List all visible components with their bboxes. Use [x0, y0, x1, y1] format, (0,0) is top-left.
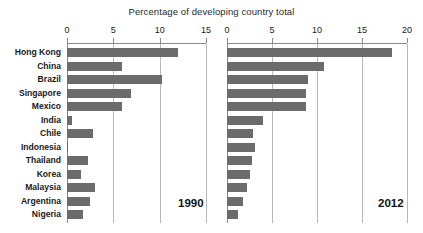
category-label: Hong Kong — [15, 48, 61, 57]
panel-1990: 051015 — [67, 27, 206, 223]
bar — [227, 210, 238, 219]
bar — [67, 48, 178, 57]
bar — [227, 102, 306, 111]
bar-row — [67, 141, 206, 155]
bar-row — [67, 73, 206, 87]
category-label: Korea — [37, 170, 61, 179]
category-row: Malaysia — [0, 181, 64, 195]
x-tick-label: 5 — [111, 25, 116, 35]
bar-row — [67, 168, 206, 182]
bar-row — [67, 87, 206, 101]
bar — [227, 129, 253, 138]
category-label: India — [41, 116, 61, 125]
x-tick-label: 10 — [155, 25, 165, 35]
bar — [227, 183, 247, 192]
bar-row — [67, 60, 206, 74]
category-label: Singapore — [19, 89, 61, 98]
panel-year-label-1990: 1990 — [178, 197, 204, 209]
bar — [227, 75, 308, 84]
bar — [227, 116, 263, 125]
bar-row — [67, 127, 206, 141]
bar — [227, 143, 255, 152]
bar-row — [67, 208, 206, 222]
category-label: Chile — [40, 129, 61, 138]
bar — [227, 156, 252, 165]
category-label: Nigeria — [32, 210, 61, 219]
bar-row — [227, 46, 407, 60]
category-label-column: Hong KongChinaBrazilSingaporeMexicoIndia… — [0, 46, 64, 223]
x-tick-label: 0 — [64, 25, 69, 35]
category-row: China — [0, 60, 64, 74]
bar-row — [227, 208, 407, 222]
category-label: Argentina — [21, 197, 61, 206]
bar-row — [67, 114, 206, 128]
bar — [67, 62, 122, 71]
category-row: Brazil — [0, 73, 64, 87]
bar — [227, 89, 306, 98]
chart-figure: Percentage of developing country total H… — [0, 0, 423, 233]
bar-row — [227, 60, 407, 74]
category-label: Indonesia — [21, 143, 61, 152]
bar-row — [227, 141, 407, 155]
category-row: Nigeria — [0, 208, 64, 222]
category-label: Brazil — [38, 75, 61, 84]
x-tick-label: 15 — [357, 25, 367, 35]
bar — [67, 197, 90, 206]
x-axis-ticks-2012: 05101520 — [227, 27, 407, 39]
bar — [67, 89, 131, 98]
panel-year-label-2012: 2012 — [378, 197, 404, 209]
bar — [67, 156, 88, 165]
bar-row — [227, 127, 407, 141]
bar — [227, 62, 324, 71]
category-row: Korea — [0, 168, 64, 182]
bar — [67, 129, 93, 138]
bar — [67, 183, 95, 192]
category-label: China — [37, 62, 61, 71]
bar-row — [227, 100, 407, 114]
bar-row — [227, 168, 407, 182]
bar — [227, 48, 392, 57]
bar-row — [227, 87, 407, 101]
bar — [67, 102, 122, 111]
x-axis-ticks-1990: 051015 — [67, 27, 206, 39]
bar-row — [227, 154, 407, 168]
category-row: Chile — [0, 127, 64, 141]
bar — [67, 210, 83, 219]
x-tick-mark — [407, 38, 408, 43]
category-row: Singapore — [0, 87, 64, 101]
category-row: Argentina — [0, 195, 64, 209]
gridline — [407, 44, 408, 223]
bar-row — [67, 181, 206, 195]
category-row: Mexico — [0, 100, 64, 114]
x-tick-label: 5 — [269, 25, 274, 35]
chart-title: Percentage of developing country total — [0, 6, 423, 17]
bar — [67, 170, 81, 179]
x-tick-label: 15 — [201, 25, 211, 35]
x-tick-label: 0 — [224, 25, 229, 35]
x-tick-mark — [206, 38, 207, 43]
category-row: Hong Kong — [0, 46, 64, 60]
gridline — [206, 44, 207, 223]
category-label: Malaysia — [25, 183, 61, 192]
category-row: Thailand — [0, 154, 64, 168]
bar-row — [67, 100, 206, 114]
bar — [67, 143, 68, 152]
bar — [227, 170, 250, 179]
panel-2012: 05101520 — [227, 27, 407, 223]
bar — [67, 116, 72, 125]
bar — [227, 197, 243, 206]
category-row: India — [0, 114, 64, 128]
bar-row — [227, 114, 407, 128]
category-label: Thailand — [26, 156, 61, 165]
category-label: Mexico — [32, 102, 61, 111]
bar-row — [227, 181, 407, 195]
bar-row — [227, 73, 407, 87]
bar — [67, 75, 162, 84]
bar-row — [67, 46, 206, 60]
x-tick-label: 20 — [402, 25, 412, 35]
x-tick-label: 10 — [312, 25, 322, 35]
bar-row — [67, 154, 206, 168]
category-row: Indonesia — [0, 141, 64, 155]
